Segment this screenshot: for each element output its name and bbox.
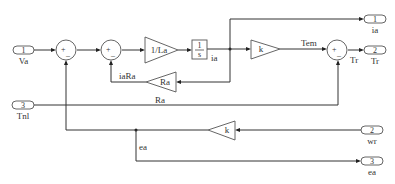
sum-block-1[interactable]: + _ — [56, 40, 76, 60]
signal-label-iara: iaRa — [119, 71, 136, 81]
wire-ea — [66, 62, 208, 130]
svg-text:ia: ia — [372, 25, 379, 35]
svg-text:1: 1 — [373, 15, 377, 24]
arrow-head — [64, 60, 68, 65]
svg-text:2: 2 — [373, 46, 377, 55]
arrow-head — [359, 17, 364, 21]
svg-text:Ra: Ra — [160, 77, 170, 87]
arrow-head — [51, 48, 56, 52]
arrow-head — [322, 47, 327, 51]
inport-va[interactable]: 1 Va — [13, 46, 34, 67]
sum-block-3[interactable]: + _ — [327, 40, 347, 60]
svg-text:2: 2 — [370, 126, 374, 135]
sum-block-2[interactable]: + _ — [101, 40, 121, 60]
svg-text:1/La: 1/La — [151, 45, 168, 55]
outport-ia[interactable]: 1 ia — [364, 15, 386, 36]
outport-tr[interactable]: 2 Tr — [364, 46, 386, 67]
svg-text:Va: Va — [19, 56, 29, 66]
svg-text:k: k — [259, 44, 264, 54]
signal-label-tem: Tem — [301, 38, 317, 48]
signal-label-tr: Tr — [350, 55, 358, 65]
block-diagram: 1 Va 3 Tnl 2 wr 1 ia 2 Tr 3 ea + _ + _ + — [0, 0, 395, 184]
svg-text:wr: wr — [367, 136, 377, 146]
arrow-head — [235, 128, 240, 132]
svg-text:1: 1 — [22, 46, 26, 55]
arrow-head — [246, 47, 251, 51]
svg-text:Tnl: Tnl — [17, 111, 30, 121]
integrator-block[interactable]: 1 s — [192, 40, 207, 59]
svg-text:s: s — [198, 50, 201, 59]
arrow-head — [359, 48, 364, 52]
gain-inv-la[interactable]: 1/La — [145, 37, 178, 63]
signal-label-ia: ia — [211, 53, 218, 63]
arrow-head — [140, 48, 145, 52]
svg-text:Ra: Ra — [155, 95, 165, 105]
svg-text:3: 3 — [370, 157, 374, 166]
svg-text:Tr: Tr — [371, 56, 379, 66]
signal-label-ea: ea — [139, 142, 147, 152]
arrow-head — [96, 48, 101, 52]
svg-text:k: k — [225, 125, 230, 135]
gain-ra[interactable]: Ra Ra — [146, 72, 176, 105]
wire-tnl — [34, 62, 338, 105]
arrow-head — [176, 80, 181, 84]
inport-wr[interactable]: 2 wr — [361, 126, 383, 147]
outport-ea[interactable]: 3 ea — [361, 157, 383, 178]
gain-k-emf[interactable]: k — [208, 121, 235, 140]
svg-text:1: 1 — [198, 41, 202, 50]
gain-k-torque[interactable]: k — [251, 40, 280, 59]
svg-text:ea: ea — [368, 167, 376, 177]
arrow-head — [109, 60, 113, 65]
arrow-head — [356, 159, 361, 163]
arrow-head — [187, 48, 192, 52]
inport-tnl[interactable]: 3 Tnl — [12, 101, 34, 122]
wire-ea-out — [136, 130, 359, 161]
svg-text:3: 3 — [21, 101, 25, 110]
arrow-head — [336, 60, 340, 65]
